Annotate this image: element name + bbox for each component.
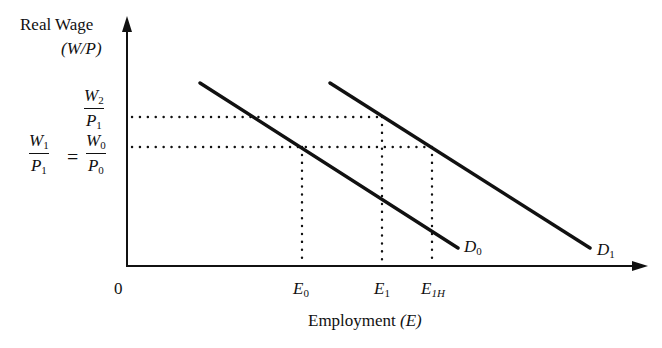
origin-label: 0 [114, 280, 123, 297]
y-tick-w0-p0: W0 P0 [86, 132, 106, 176]
equals-sign: = [67, 147, 78, 167]
x-tick-e1h: E1H [421, 280, 445, 299]
x-tick-e0: E0 [293, 280, 309, 299]
curve-label-d1: D1 [597, 241, 615, 260]
y-axis-arrow-icon [122, 16, 132, 32]
guide-lines [132, 117, 432, 262]
demand-curve-d1 [330, 83, 590, 248]
labor-demand-chart: Real Wage (W/P) W2 P1 W1 P1 = W0 P0 0 E0… [0, 0, 662, 348]
y-tick-w1-p1: W1 P1 [29, 132, 49, 176]
x-axis-title: Employment (E) [308, 312, 422, 329]
y-axis-unit: (W/P) [61, 40, 102, 57]
x-tick-e1: E1 [374, 280, 390, 299]
x-axis-arrow-icon [632, 261, 648, 271]
demand-curve-d0 [200, 83, 458, 248]
y-axis-title: Real Wage [20, 16, 93, 33]
y-tick-w2-p1: W2 P1 [84, 87, 104, 131]
curve-label-d0: D0 [464, 238, 482, 257]
